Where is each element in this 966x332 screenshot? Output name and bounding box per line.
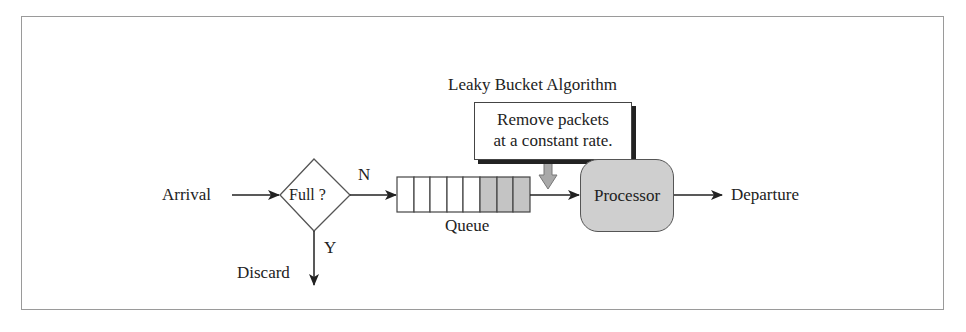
processor-node: Processor [580, 159, 674, 232]
departure-label: Departure [731, 186, 799, 203]
note-line-2: at a constant rate. [475, 130, 631, 151]
decision-label: Full ? [289, 187, 326, 203]
rate-note-box: Remove packets at a constant rate. [474, 102, 632, 160]
queue-slots [397, 177, 530, 212]
processor-label: Processor [594, 186, 660, 206]
diagram-title: Leaky Bucket Algorithm [448, 76, 617, 93]
diagram-lines [0, 0, 966, 332]
queue-label: Queue [445, 217, 489, 234]
arrival-label: Arrival [162, 186, 211, 203]
yes-edge-label: Y [324, 239, 336, 256]
no-edge-label: N [358, 166, 370, 183]
discard-label: Discard [237, 264, 290, 281]
note-line-1: Remove packets [475, 109, 631, 130]
